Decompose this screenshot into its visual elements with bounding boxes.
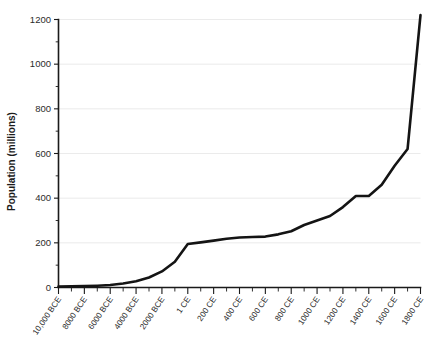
chart-canvas: 020040060080010001200 10,000 BCE8000 BCE… [0,0,443,353]
y-axis-tick-label: 600 [35,148,51,159]
y-axis-tick-label: 1200 [30,14,51,25]
y-axis-tick-label: 0 [46,282,51,293]
y-axis-tick-label: 800 [35,103,51,114]
population-line-chart: 020040060080010001200 10,000 BCE8000 BCE… [0,0,443,353]
chart-background [0,0,443,353]
y-axis-tick-label: 200 [35,237,51,248]
y-axis-tick-label: 1000 [30,58,51,69]
y-axis-title: Population (millions) [6,112,17,211]
y-axis-tick-label: 400 [35,192,51,203]
